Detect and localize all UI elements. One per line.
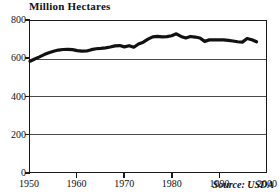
y-tick-mark-800 [25,19,30,21]
y-tick-mark-0 [25,172,30,174]
chart-title: Million Hectares [29,0,111,12]
y-tick-mark-600 [25,57,30,59]
x-tick-label-1970: 1970 [114,178,134,189]
y-tick-label-200: 200 [0,129,26,140]
x-tick-mark-1970 [123,173,125,178]
x-tick-label-1980: 1980 [162,178,182,189]
source-note: Source: USDA [213,179,274,190]
x-tick-label-1950: 1950 [19,178,39,189]
chart-figure: Million Hectares 0200400600800 195019601… [0,0,280,195]
y-tick-mark-200 [25,134,30,136]
series-line-world-grain-harvested-area [30,21,266,172]
y-tick-label-400: 400 [0,91,26,102]
x-tick-mark-1960 [76,173,78,178]
x-tick-mark-1980 [171,173,173,178]
y-tick-label-800: 800 [0,14,26,25]
plot-area [29,20,267,173]
x-tick-label-1960: 1960 [67,178,87,189]
y-tick-mark-400 [25,96,30,98]
y-tick-label-0: 0 [0,167,26,178]
x-tick-mark-1990 [219,173,221,178]
y-tick-label-600: 600 [0,52,26,63]
